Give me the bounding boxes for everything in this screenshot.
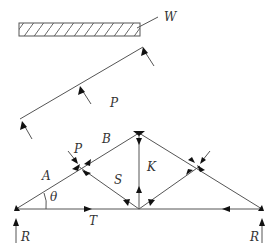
- truss-diagram: W P: [0, 0, 279, 251]
- weight-beam: [19, 17, 158, 36]
- member-a-label: A: [41, 169, 51, 183]
- member-k-label: K: [146, 160, 157, 174]
- member-b-label: B: [101, 132, 111, 146]
- reaction-left-label: R: [20, 230, 30, 244]
- reaction-right: [259, 218, 265, 243]
- weight-label: W: [164, 10, 178, 24]
- distributed-load-label: P: [109, 96, 119, 110]
- angle-label: θ: [50, 190, 58, 204]
- member-t-label: T: [89, 214, 98, 228]
- load-arrow-right: [145, 52, 154, 66]
- member-s-label: S: [114, 173, 122, 187]
- reaction-right-label: R: [249, 230, 259, 244]
- inclined-roof: [20, 47, 154, 139]
- joint-load-label: P: [73, 142, 83, 156]
- angle-arc: [44, 193, 46, 209]
- reaction-left: [13, 218, 19, 243]
